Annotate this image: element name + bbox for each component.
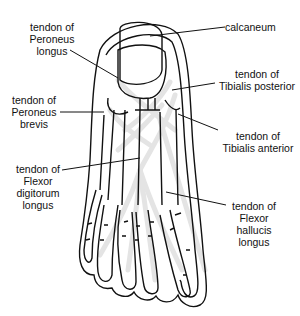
label-line: longus xyxy=(22,45,82,57)
label-line: tendon of xyxy=(12,163,64,175)
label-line: digitorum xyxy=(12,187,64,199)
label-line: tendon of xyxy=(6,94,62,106)
label-line: Peroneus xyxy=(22,33,82,45)
label-line: Peroneus xyxy=(6,106,62,118)
label-tibialis-posterior: tendon of Tibialis posterior xyxy=(214,68,300,92)
label-line: calcaneum xyxy=(225,21,285,33)
label-line: brevis xyxy=(6,118,62,130)
leader-tibialis-posterior xyxy=(172,83,215,90)
label-line: Tibialis anterior xyxy=(216,142,300,154)
label-line: tendon of xyxy=(228,200,280,212)
label-line: Flexor xyxy=(12,175,64,187)
label-calcaneum: calcaneum xyxy=(225,21,285,33)
label-line: tendon of xyxy=(216,130,300,142)
label-peroneus-brevis: tendon of Peroneus brevis xyxy=(6,94,62,130)
label-flexor-digitorum-longus: tendon of Flexor digitorum longus xyxy=(12,163,64,211)
label-line: longus xyxy=(12,199,64,211)
label-line: hallucis xyxy=(228,224,280,236)
calcaneum-bone xyxy=(120,22,162,84)
label-line: longus xyxy=(228,236,280,248)
label-line: Tibialis posterior xyxy=(214,80,300,92)
label-line: tendon of xyxy=(22,21,82,33)
label-line: Flexor xyxy=(228,212,280,224)
label-flexor-hallucis-longus: tendon of Flexor hallucis longus xyxy=(228,200,280,248)
label-line: tendon of xyxy=(214,68,300,80)
label-peroneus-longus: tendon of Peroneus longus xyxy=(22,21,82,57)
leader-flexor-hallucis xyxy=(166,192,226,205)
label-tibialis-anterior: tendon of Tibialis anterior xyxy=(216,130,300,154)
